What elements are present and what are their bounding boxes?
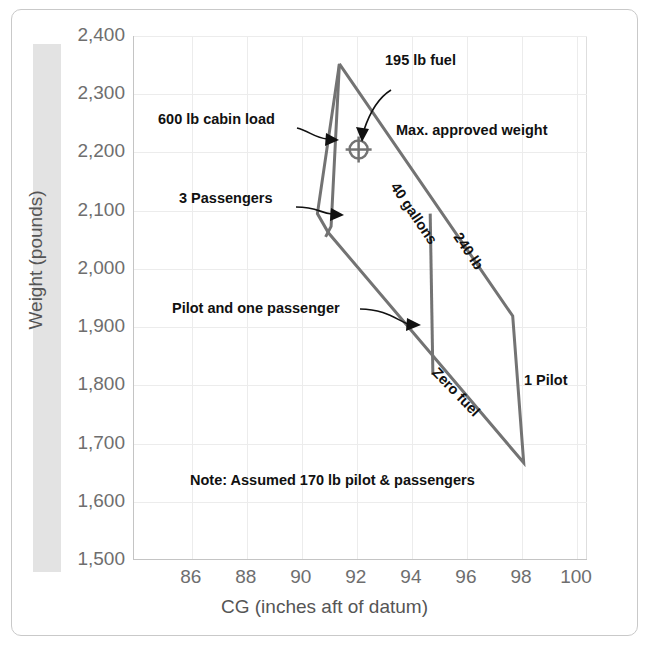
cg-marker-group bbox=[346, 137, 372, 163]
annotation-pilot-one-pax: Pilot and one passenger bbox=[172, 301, 340, 317]
annotation-note: Note: Assumed 170 lb pilot & passengers bbox=[190, 473, 475, 489]
annotation-fuel-195: 195 lb fuel bbox=[385, 53, 456, 69]
arrowhead-pilot-one-pax bbox=[406, 318, 421, 331]
arrowhead-passengers-3 bbox=[330, 208, 344, 221]
leader-passengers-3 bbox=[296, 207, 332, 214]
annotation-passengers-3: 3 Passengers bbox=[179, 191, 273, 207]
annotation-max-weight: Max. approved weight bbox=[396, 123, 547, 139]
annotation-pilot-1: 1 Pilot bbox=[524, 373, 568, 389]
annotation-cabin-load: 600 lb cabin load bbox=[158, 112, 275, 128]
leader-cabin-load bbox=[297, 128, 327, 139]
leader-fuel-195 bbox=[364, 90, 391, 130]
chart-figure: Weight (pounds) 1,5001,6001,7001,8001,90… bbox=[0, 0, 649, 648]
envelope-overlay bbox=[0, 0, 649, 648]
